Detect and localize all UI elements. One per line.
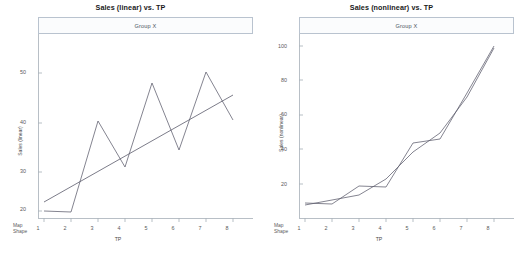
map-shape-corner-label-right: Map Shape xyxy=(274,223,288,236)
y-tick-label: 30 xyxy=(12,168,26,174)
x-tick-label: 8 xyxy=(484,225,492,231)
x-axis-label: TP xyxy=(359,236,399,242)
x-tick-label: 2 xyxy=(61,225,69,231)
map-shape-line-2: Shape xyxy=(13,229,27,235)
map-shape-corner-label-left: Map Shape xyxy=(13,223,27,236)
page-title-2: Sales (nonlinear) vs. TP xyxy=(261,3,522,12)
x-tick-label: 4 xyxy=(115,225,123,231)
x-tick-label: 4 xyxy=(376,225,384,231)
y-axis-label: Sales (nonlinear) xyxy=(278,99,284,167)
panel-sales-nonlinear: Sales (nonlinear) vs. TP Group X Sales (… xyxy=(261,0,522,256)
x-tick-label: 7 xyxy=(457,225,465,231)
strip-header-right: Group X xyxy=(299,17,514,34)
x-tick-label: 3 xyxy=(349,225,357,231)
y-tick-label: 40 xyxy=(269,146,287,152)
y-tick-label: 60 xyxy=(269,111,287,117)
x-tick-label: 6 xyxy=(430,225,438,231)
x-tick-label: 5 xyxy=(142,225,150,231)
x-tick-label: 5 xyxy=(403,225,411,231)
plot-area-right xyxy=(299,34,514,218)
x-tick-label: 3 xyxy=(88,225,96,231)
y-tick-label: 80 xyxy=(269,77,287,83)
y-tick-label: 100 xyxy=(269,43,287,49)
y-tick-label: 50 xyxy=(12,69,26,75)
x-tick-label: 1 xyxy=(34,225,42,231)
map-shape-line-2: Shape xyxy=(274,229,288,235)
y-tick-label: 20 xyxy=(12,206,26,212)
page-title: Sales (linear) vs. TP xyxy=(0,3,261,12)
x-tick-label: 7 xyxy=(196,225,204,231)
y-tick-label: 40 xyxy=(12,119,26,125)
x-axis-label: TP xyxy=(98,236,138,242)
panel-sales-linear: Sales (linear) vs. TP Group X Sales (lin… xyxy=(0,0,261,256)
x-tick-label: 8 xyxy=(223,225,231,231)
x-tick-label: 1 xyxy=(295,225,303,231)
figure-canvas: Sales (linear) vs. TP Group X Sales (lin… xyxy=(0,0,522,256)
plot-svg-left xyxy=(38,34,253,218)
x-tick-label: 2 xyxy=(322,225,330,231)
plot-svg-right xyxy=(299,34,514,218)
strip-label: Group X xyxy=(39,23,252,29)
strip-label: Group X xyxy=(300,23,513,29)
plot-area-left xyxy=(38,34,253,218)
strip-header-left: Group X xyxy=(38,17,253,34)
y-tick-label: 20 xyxy=(269,181,287,187)
x-tick-label: 6 xyxy=(169,225,177,231)
